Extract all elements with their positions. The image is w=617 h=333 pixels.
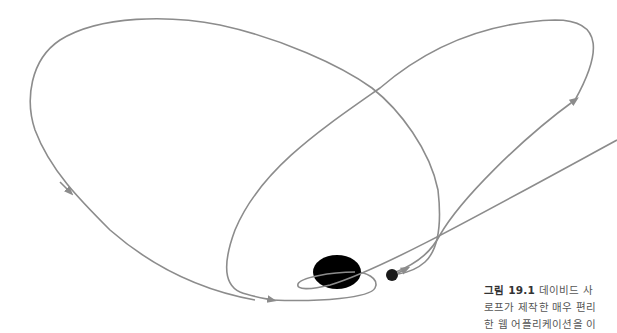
caption-line-3: 한 웹 어플리케이션을 이 [484, 318, 597, 330]
moon [386, 269, 398, 281]
trajectory-segment-left-loop [30, 19, 439, 300]
figure-label: 그림 19.1 [484, 284, 535, 296]
trajectory-segment-outbound [396, 100, 575, 272]
figure-caption: 그림 19.1 데이비드 사 로프가 제작한 매우 편리 한 웹 어플리케이션을… [484, 282, 616, 333]
left-loop-arrow [60, 182, 70, 192]
trajectory-segment-right-loop [227, 20, 594, 300]
caption-line-1: 데이비드 사 [539, 284, 594, 296]
caption-line-2: 로프가 제작한 매우 편리 [484, 301, 597, 313]
